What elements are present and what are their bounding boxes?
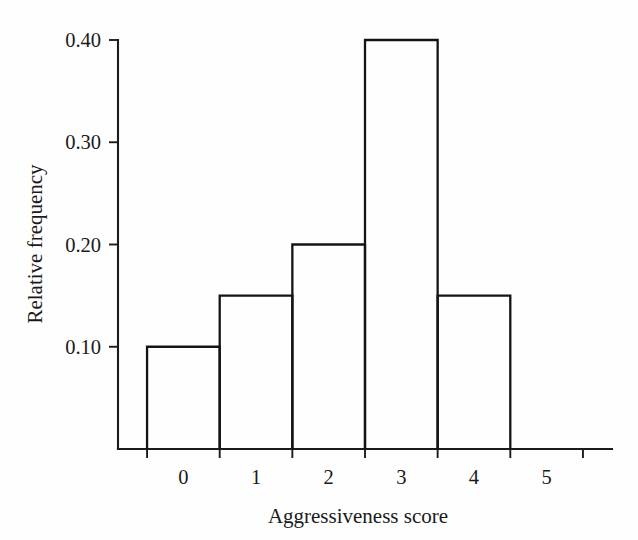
- x-tick-label: 0: [178, 466, 188, 488]
- x-axis-title: Aggressiveness score: [268, 504, 448, 528]
- x-tick-label: 4: [469, 466, 479, 488]
- x-tick-label: 2: [324, 466, 334, 488]
- figure-page: 0.100.200.300.40 012345 Aggressiveness s…: [0, 0, 638, 540]
- x-axis-tick-labels: 012345: [178, 466, 551, 488]
- histogram-bar: [147, 347, 220, 449]
- y-axis-ticks: [109, 40, 118, 347]
- histogram-bars: [147, 40, 510, 449]
- histogram-bar: [220, 296, 293, 449]
- y-tick-label: 0.30: [65, 131, 101, 153]
- histogram-bar: [365, 40, 438, 449]
- y-axis-tick-labels: 0.100.200.300.40: [65, 29, 101, 358]
- x-tick-label: 5: [541, 466, 551, 488]
- x-axis-ticks: [147, 449, 583, 458]
- histogram-bar: [438, 296, 511, 449]
- histogram-canvas: 0.100.200.300.40 012345 Aggressiveness s…: [0, 0, 638, 540]
- histogram-figure: 0.100.200.300.40 012345 Aggressiveness s…: [0, 0, 638, 540]
- y-tick-label: 0.20: [65, 234, 101, 256]
- x-tick-label: 3: [396, 466, 406, 488]
- y-tick-label: 0.40: [65, 29, 101, 51]
- histogram-bar: [292, 245, 365, 450]
- x-tick-label: 1: [251, 466, 261, 488]
- y-tick-label: 0.10: [65, 336, 101, 358]
- y-axis-title: Relative frequency: [23, 164, 47, 324]
